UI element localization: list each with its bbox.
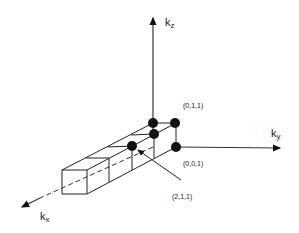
pointer-arrow: [138, 150, 181, 180]
label-0-0-1: (0,0,1): [183, 160, 203, 168]
point-2-1-1: [127, 141, 137, 151]
kx-axis: [22, 198, 40, 207]
point-mid: [149, 129, 159, 139]
ky-axis: [176, 147, 280, 148]
point-0-0-1: [171, 142, 181, 152]
kz-label: kz: [165, 16, 175, 30]
label-2-1-1: (2,1,1): [172, 193, 192, 201]
kx-axis-dashed: [40, 147, 153, 198]
label-0-1-1: (0,1,1): [183, 102, 203, 110]
point-0-1-1: [170, 118, 180, 128]
kx-label: kx: [40, 210, 50, 224]
ky-label: ky: [271, 127, 281, 141]
point-top-origin: [148, 118, 158, 128]
k-space-lattice-diagram: kz ky kx (0,1,1) (0,0,1) (2,1,1): [0, 0, 299, 233]
